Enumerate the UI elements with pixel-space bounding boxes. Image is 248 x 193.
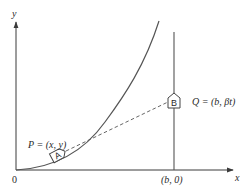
diagram-canvas: A B y x 0 (b, 0) P = (x, y) Q = (b, βt): [0, 0, 248, 193]
svg-text:B: B: [171, 98, 177, 108]
y-axis-label: y: [11, 8, 17, 19]
tangent-dashed-line: [66, 102, 168, 151]
origin-label: 0: [12, 174, 17, 185]
marker-b-icon: B: [168, 93, 180, 108]
x-axis-label: x: [234, 172, 240, 183]
b-point-label: (b, 0): [161, 174, 183, 186]
point-p-label: P = (x, y): [27, 139, 67, 151]
pursuit-curve-diagram: A B y x 0 (b, 0) P = (x, y) Q = (b, βt): [0, 0, 248, 193]
point-q-label: Q = (b, βt): [192, 96, 236, 108]
